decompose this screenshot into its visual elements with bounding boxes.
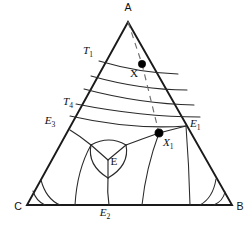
- field-curve-e1-lower: [186, 126, 190, 205]
- isotherm-label-t1: T1: [83, 44, 93, 59]
- isotherm-label-t1-sub: 1: [89, 50, 93, 59]
- eutectic-label-e1-sub: 1: [197, 123, 201, 132]
- vertex-label-a: A: [124, 1, 132, 13]
- eutectic-label-e2-sub: 2: [107, 212, 111, 221]
- eutectic-label-e2: E2: [99, 206, 111, 221]
- boundary-e3-to-e: [70, 130, 91, 145]
- eutectic-label-e: E: [111, 155, 118, 167]
- isotherm-curve-t3: [84, 89, 194, 105]
- point-label-x: X: [130, 67, 138, 79]
- boundary-e-to-e2: [108, 178, 109, 205]
- eutectic-label-e3-base: E: [44, 114, 52, 126]
- e-field-arc-top: [91, 140, 126, 145]
- field-curve-x1-lower: [142, 133, 159, 205]
- point-label-x1-sub: 1: [170, 142, 174, 151]
- field-curve-left-lower: [75, 145, 91, 205]
- point-x1-marker[interactable]: [155, 129, 163, 137]
- corner-arc-c-outer: [33, 191, 45, 205]
- vertex-label-c: C: [14, 200, 22, 212]
- ternary-phase-diagram: A B C T1 T4 E1 E2 E3 E X X1: [0, 0, 251, 228]
- isotherm-curve-t5: [70, 116, 186, 127]
- corner-arc-c-inner: [41, 180, 60, 205]
- eutectic-label-e1-base: E: [189, 117, 197, 129]
- point-label-x1: X1: [162, 136, 174, 151]
- corner-arc-b-outer: [214, 192, 225, 205]
- isotherm-label-t4: T4: [63, 95, 73, 110]
- triangle-outline: [27, 22, 232, 205]
- eutectic-label-e3-sub: 3: [52, 120, 56, 129]
- point-x-marker[interactable]: [138, 60, 145, 67]
- corner-arc-b-inner: [200, 179, 216, 205]
- e-field-arc-left: [90, 145, 108, 178]
- isotherm-curve-t2: [91, 76, 187, 90]
- vertex-label-b: B: [236, 200, 243, 212]
- eutectic-label-e2-base: E: [99, 206, 107, 218]
- e-field-spoke-left: [91, 145, 108, 160]
- phase-diagram-svg: A B C T1 T4 E1 E2 E3 E X X1: [0, 0, 251, 228]
- eutectic-label-e1: E1: [189, 117, 201, 132]
- eutectic-label-e3: E3: [44, 114, 56, 129]
- isotherm-label-t4-sub: 4: [69, 101, 73, 110]
